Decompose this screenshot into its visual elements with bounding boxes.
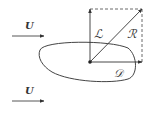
origin-point <box>88 60 92 64</box>
flow-label-top: U <box>25 20 35 31</box>
force-diagram: U U ℒ ℛ 𝒟 <box>0 0 160 113</box>
drag-label: 𝒟 <box>114 67 125 80</box>
lift-label: ℒ <box>94 27 103 41</box>
flow-arrow-top: U <box>12 20 44 36</box>
flow-arrow-bottom: U <box>12 85 44 101</box>
flow-label-bottom: U <box>25 85 35 96</box>
resultant-label: ℛ <box>127 27 138 41</box>
